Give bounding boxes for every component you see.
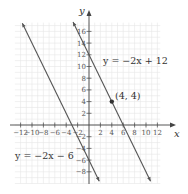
y-tick-label: −6 — [76, 157, 87, 165]
x-tick-label: 12 — [153, 129, 162, 137]
y-axis-label: y — [78, 5, 85, 16]
equation-label-1: y = −2x + 12 — [102, 55, 168, 66]
x-tick-label: 4 — [110, 129, 115, 137]
y-tick-label: 12 — [77, 51, 86, 59]
graph-canvas: −12−10−8−6−4−224681012−8−6−4−22468101214… — [0, 0, 188, 194]
data-point — [110, 99, 114, 103]
point-label: (4, 4) — [115, 90, 141, 101]
x-tick-label: 2 — [98, 129, 102, 137]
y-tick-label: 4 — [82, 98, 87, 106]
x-tick-label: −10 — [25, 129, 40, 137]
y-tick-label: 8 — [82, 75, 86, 83]
y-tick-label: 16 — [77, 28, 86, 36]
y-tick-label: 10 — [77, 63, 86, 71]
x-tick-label: −4 — [61, 129, 72, 137]
y-tick-label: −2 — [76, 133, 86, 141]
equation-label-2: y = −2x − 6 — [14, 150, 74, 161]
x-axis-label: x — [174, 128, 180, 139]
y-tick-label: −8 — [76, 168, 86, 176]
x-tick-label: −6 — [50, 129, 61, 137]
x-tick-label: 8 — [132, 129, 136, 137]
y-tick-label: 6 — [82, 86, 87, 94]
x-tick-label: −8 — [38, 129, 48, 137]
x-tick-label: 10 — [142, 129, 151, 137]
y-tick-label: 2 — [82, 110, 86, 118]
